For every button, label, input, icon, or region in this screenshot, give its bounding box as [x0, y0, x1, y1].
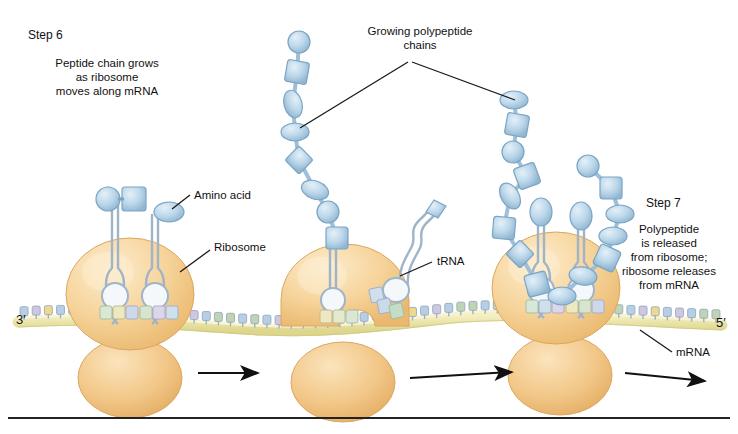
ribosome-left	[66, 238, 194, 418]
five-prime-label: 5′	[716, 316, 726, 330]
step7-title: Step 7	[646, 196, 681, 210]
amino-acid-right-pair	[530, 198, 592, 230]
trna-label: tRNA	[437, 254, 464, 268]
ribosome-label: Ribosome	[214, 240, 266, 254]
leader-chains-right	[412, 62, 515, 100]
step6-body: Peptide chain grows as ribosome moves al…	[22, 56, 192, 98]
mrna-label: mRNA	[676, 345, 710, 359]
growing-polypeptide-chain-left	[281, 31, 348, 249]
leader-ribosome	[180, 250, 210, 272]
figure-baseline	[8, 417, 730, 419]
amino-acid-label: Amino acid	[194, 188, 251, 202]
growing-chains-label: Growing polypeptide chains	[330, 24, 510, 52]
step7-body: Polypeptide is released from ribosome; r…	[608, 222, 730, 292]
leader-chains-left	[300, 62, 408, 128]
three-prime-label: 3′	[16, 313, 26, 327]
leader-mrna	[640, 330, 672, 352]
figure-canvas: Step 6 Peptide chain grows as ribosome m…	[0, 0, 738, 434]
motion-arrows	[198, 372, 705, 381]
leader-trna	[400, 262, 432, 276]
step6-title: Step 6	[28, 28, 63, 42]
amino-acid-left-pair	[96, 187, 184, 222]
